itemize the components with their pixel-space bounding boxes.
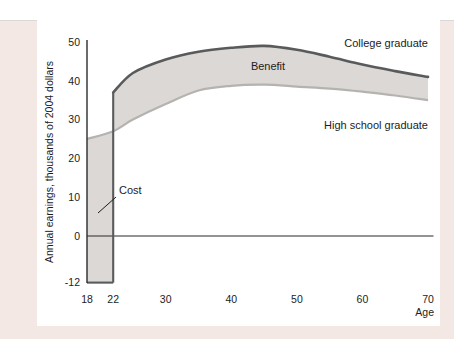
y-tick-label: 20	[68, 152, 80, 164]
benefit-label: Benefit	[251, 60, 285, 72]
x-tick-label: 18	[81, 293, 93, 305]
x-tick-label: 60	[357, 293, 369, 305]
y-tick-labels: 50403020100-12	[65, 36, 80, 289]
y-tick-label: -12	[65, 276, 80, 288]
high-school-graduate-label: High school graduate	[324, 119, 428, 131]
x-tick-label: 50	[291, 293, 303, 305]
y-tick-label: 40	[68, 75, 80, 87]
y-axis-title: Annual earnings, thousands of 2004 dolla…	[43, 61, 55, 263]
x-tick-label: 40	[225, 293, 237, 305]
x-tick-labels: 18223040506070	[81, 293, 434, 305]
cost-area	[87, 131, 113, 282]
college-graduate-label: College graduate	[344, 37, 428, 49]
x-axis-title: Age	[415, 306, 434, 318]
cost-label: Cost	[119, 184, 142, 196]
x-tick-label: 22	[107, 293, 119, 305]
y-tick-label: 0	[74, 230, 80, 242]
x-tick-label: 70	[422, 293, 434, 305]
earnings-chart: 50403020100-12 18223040506070 Annual ear…	[0, 0, 454, 339]
x-tick-label: 30	[160, 293, 172, 305]
y-tick-label: 50	[68, 36, 80, 48]
y-tick-label: 10	[68, 191, 80, 203]
y-tick-label: 30	[68, 113, 80, 125]
